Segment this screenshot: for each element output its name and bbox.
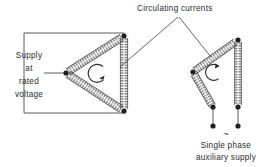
right-delta-windings: [191, 39, 241, 107]
aux-supply-label-line-2: auxiliary supply: [196, 153, 256, 163]
right-circuit-group: [190, 37, 241, 128]
left-circuit-group: [24, 33, 128, 114]
circulating-currents-label: Circulating currents: [137, 4, 213, 14]
leader-lines: [120, 17, 211, 67]
electrical-diagram-figure: Circulating currents Supply at rated vol…: [0, 0, 268, 167]
supply-label-line-3: rated: [19, 77, 39, 87]
left-circulating-current-arrow: [88, 64, 104, 82]
supply-label-line-1: Supply: [16, 51, 43, 61]
supply-label-line-2: at: [25, 64, 32, 74]
aux-supply-label-line-1: Single phase: [201, 141, 251, 151]
supply-label-line-4: voltage: [15, 90, 43, 100]
right-supply-leads: [213, 107, 238, 126]
ac-source-symbol: ~: [223, 129, 228, 139]
left-delta-windings: [66, 35, 128, 113]
